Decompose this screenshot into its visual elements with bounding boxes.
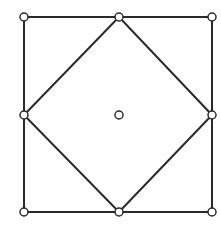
node-top-middle bbox=[115, 13, 123, 21]
inner-diamond-edge-top-middle-to-middle-right bbox=[119, 17, 212, 115]
node-bottom-left bbox=[20, 208, 28, 216]
node-top-left bbox=[20, 13, 28, 21]
node-bottom-right bbox=[208, 208, 216, 216]
node-bottom-middle bbox=[115, 208, 123, 216]
node-middle-right bbox=[208, 111, 216, 119]
nodes-layer bbox=[20, 13, 216, 216]
inner-diamond-edge-middle-right-to-bottom-middle bbox=[119, 115, 212, 212]
node-center bbox=[115, 111, 123, 119]
node-top-right bbox=[208, 13, 216, 21]
node-middle-left bbox=[20, 111, 28, 119]
inner-diamond-edge-middle-left-to-top-middle bbox=[24, 17, 119, 115]
square-diamond-diagram bbox=[0, 0, 221, 237]
inner-diamond-edge-bottom-middle-to-middle-left bbox=[24, 115, 119, 212]
